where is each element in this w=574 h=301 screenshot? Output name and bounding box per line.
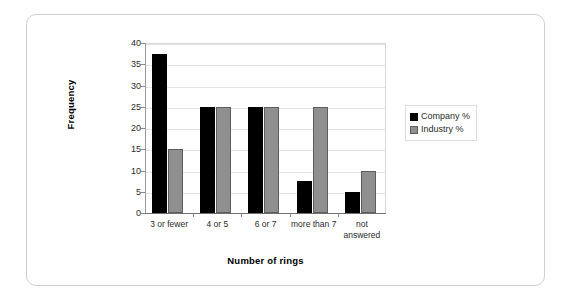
y-tick-label: 35 xyxy=(117,60,141,69)
bar xyxy=(361,171,376,214)
y-tick-label: 10 xyxy=(117,167,141,176)
bar-group xyxy=(242,44,290,213)
x-tick-label: more than 7 xyxy=(290,219,338,230)
y-tick-mark xyxy=(141,128,145,129)
bar-group xyxy=(291,44,339,213)
y-tick-mark xyxy=(141,43,145,44)
x-tick-label: 4 or 5 xyxy=(193,219,241,230)
legend-item: Industry % xyxy=(410,123,470,136)
plot-area xyxy=(145,43,386,213)
x-tick-label: 3 or fewer xyxy=(145,219,193,230)
y-tick-label: 20 xyxy=(117,124,141,133)
x-tick-mark xyxy=(338,213,339,217)
x-axis-line xyxy=(145,213,386,214)
x-tick-label: not answered xyxy=(338,219,386,241)
y-tick-label: 15 xyxy=(117,145,141,154)
y-tick-label: 25 xyxy=(117,103,141,112)
bar xyxy=(200,107,215,213)
bar-group xyxy=(194,44,242,213)
y-tick-label: 5 xyxy=(117,188,141,197)
y-tick-mark xyxy=(141,107,145,108)
y-axis-tick-labels: 0510152025303540 xyxy=(117,43,141,213)
x-axis-tick-labels: 3 or fewer4 or 56 or 7more than 7not ans… xyxy=(145,219,386,251)
bar xyxy=(248,107,263,213)
legend-swatch-icon xyxy=(410,126,418,134)
x-tick-label: 6 or 7 xyxy=(242,219,290,230)
bar xyxy=(216,107,231,213)
y-tick-label: 0 xyxy=(117,209,141,218)
bar xyxy=(313,107,328,213)
legend-swatch-icon xyxy=(410,113,418,121)
legend-label: Industry % xyxy=(421,124,464,135)
legend-label: Company % xyxy=(421,111,470,122)
bar xyxy=(345,192,360,213)
y-tick-label: 30 xyxy=(117,82,141,91)
y-axis-title: Frequency xyxy=(65,45,76,165)
bar-chart: 0510152025303540 Frequency 3 or fewer4 o… xyxy=(27,15,546,287)
x-tick-mark xyxy=(290,213,291,217)
y-tick-mark xyxy=(141,86,145,87)
bar xyxy=(168,149,183,213)
y-tick-mark xyxy=(141,149,145,150)
bar xyxy=(152,54,167,213)
figure-card: 0510152025303540 Frequency 3 or fewer4 o… xyxy=(26,14,545,286)
y-tick-mark xyxy=(141,64,145,65)
bar xyxy=(297,181,312,213)
y-tick-label: 40 xyxy=(117,39,141,48)
y-tick-mark xyxy=(141,213,145,214)
bar xyxy=(264,107,279,213)
y-tick-mark xyxy=(141,192,145,193)
x-tick-mark xyxy=(193,213,194,217)
x-axis-title: Number of rings xyxy=(145,255,386,266)
bar-group xyxy=(339,44,387,213)
legend-item: Company % xyxy=(410,110,470,123)
y-tick-mark xyxy=(141,171,145,172)
bar-group xyxy=(146,44,194,213)
chart-legend: Company %Industry % xyxy=(405,105,477,141)
x-tick-mark xyxy=(241,213,242,217)
